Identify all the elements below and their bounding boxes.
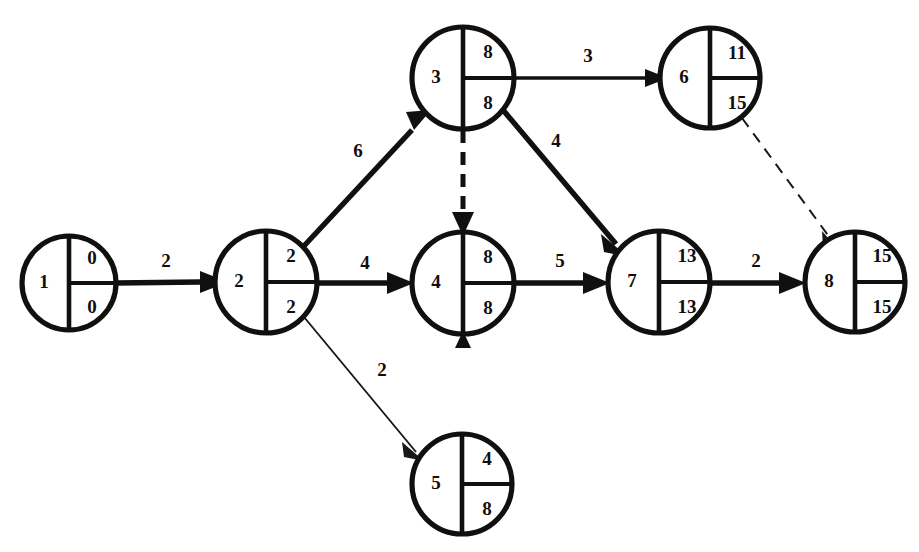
edge-3-to-6[interactable]: 3 bbox=[513, 45, 668, 87]
edge-2-to-4-label: 4 bbox=[360, 252, 370, 273]
node-7[interactable]: 7 13 13 bbox=[608, 231, 710, 333]
node-2-late-value: 2 bbox=[286, 296, 296, 317]
node-5-id-label: 5 bbox=[431, 472, 441, 493]
edge-6-to-8-dummy[interactable] bbox=[742, 118, 842, 254]
node-4-id-label: 4 bbox=[431, 271, 441, 292]
edge-2-to-5[interactable]: 2 bbox=[304, 317, 424, 461]
node-3[interactable]: 3 8 8 bbox=[412, 27, 514, 129]
node-2[interactable]: 2 2 2 bbox=[215, 231, 317, 333]
edge-2-to-4[interactable]: 4 bbox=[317, 252, 414, 294]
edge-2-to-5-line bbox=[304, 317, 416, 452]
node-5-early-value: 4 bbox=[482, 448, 492, 469]
node-8[interactable]: 8 15 15 bbox=[805, 232, 905, 332]
node-1-early-value: 0 bbox=[87, 247, 97, 268]
node-6-early-value: 11 bbox=[728, 42, 746, 63]
node-6[interactable]: 6 11 15 bbox=[660, 28, 760, 128]
edge-3-to-6-label: 3 bbox=[583, 45, 593, 66]
edge-1-to-2-label: 2 bbox=[161, 250, 171, 271]
node-1[interactable]: 1 0 0 bbox=[22, 236, 116, 330]
network-diagram-canvas: 2 6 4 2 bbox=[0, 0, 919, 552]
node-4[interactable]: 4 8 8 bbox=[412, 232, 514, 334]
edge-4-to-7[interactable]: 5 bbox=[513, 250, 610, 294]
edge-3-to-7-label: 4 bbox=[551, 130, 561, 151]
edge-1-to-2[interactable]: 2 bbox=[116, 250, 228, 293]
edge-2-to-5-label: 2 bbox=[377, 359, 387, 380]
node-1-id-label: 1 bbox=[39, 271, 49, 292]
node-6-id-label: 6 bbox=[679, 66, 689, 87]
network-diagram-svg: 2 6 4 2 bbox=[0, 0, 919, 552]
edge-2-to-3-label: 6 bbox=[353, 140, 363, 161]
node-5-late-value: 8 bbox=[482, 498, 492, 519]
node-4-early-value: 8 bbox=[483, 246, 493, 267]
node-3-early-value: 8 bbox=[483, 41, 493, 62]
edge-3-to-7[interactable]: 4 bbox=[503, 110, 628, 257]
node-6-late-value: 15 bbox=[728, 92, 747, 113]
node-2-id-label: 2 bbox=[234, 270, 244, 291]
edge-7-to-8[interactable]: 2 bbox=[710, 250, 806, 294]
node-3-id-label: 3 bbox=[431, 66, 441, 87]
node-8-late-value: 15 bbox=[873, 296, 892, 317]
node-1-late-value: 0 bbox=[87, 296, 97, 317]
node-8-early-value: 15 bbox=[873, 245, 892, 266]
node-5[interactable]: 5 4 8 bbox=[412, 434, 512, 534]
node-7-early-value: 13 bbox=[678, 245, 697, 266]
node-7-id-label: 7 bbox=[627, 270, 637, 291]
node-8-id-label: 8 bbox=[824, 270, 834, 291]
edge-7-to-8-arrowhead bbox=[779, 272, 806, 294]
edge-7-to-8-label: 2 bbox=[751, 250, 761, 271]
edge-6-to-8-dashed-line bbox=[742, 118, 833, 242]
edge-4-to-7-label: 5 bbox=[555, 250, 565, 271]
edge-2-to-3[interactable]: 6 bbox=[303, 110, 431, 247]
edge-1-to-2-line bbox=[116, 282, 200, 283]
node-2-early-value: 2 bbox=[286, 245, 296, 266]
node-7-late-value: 13 bbox=[678, 296, 697, 317]
node-4-late-value: 8 bbox=[483, 297, 493, 318]
edge-3-to-4-dummy[interactable] bbox=[452, 130, 474, 236]
node-3-late-value: 8 bbox=[483, 92, 493, 113]
